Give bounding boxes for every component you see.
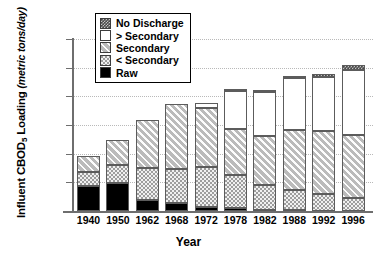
y-axis-units: (metric tons/day) [15,7,27,88]
bar-segment-raw [106,183,129,211]
bar-segment-gt_secondary [224,91,247,129]
bar-segment-lt_secondary [253,185,276,210]
bar-1972 [195,39,218,211]
legend-swatch-icon [100,30,111,41]
legend-item-secondary: > Secondary [100,29,184,41]
bar-segment-secondary [253,136,276,185]
bar-1992 [312,39,335,211]
bar-segment-secondary [77,156,100,172]
bar-1978 [224,39,247,211]
bar-segment-lt_secondary [106,165,129,183]
legend-item-raw: Raw [100,67,184,79]
bar-segment-no_discharge [253,90,276,92]
bar-segment-gt_secondary [283,78,306,130]
legend-swatch-icon [100,18,111,29]
legend-item-secondary: < Secondary [100,54,184,66]
legend-label: No Discharge [116,17,184,29]
legend-item-secondary: Secondary [100,42,184,54]
bar-segment-lt_secondary [283,190,306,211]
legend-swatch-icon [100,42,111,53]
bar-segment-secondary [283,130,306,190]
legend-label: < Secondary [116,54,179,66]
bar-segment-lt_secondary [312,194,335,211]
y-axis-title: Influent CBOD5 Loading (metric tons/day) [15,10,27,218]
y-axis-title-rest: Loading [15,88,27,137]
bar-1982 [253,39,276,211]
legend-item-no-discharge: No Discharge [100,17,184,29]
y-axis-title-main: Influent CBOD [15,142,27,218]
x-axis-line [63,211,373,213]
bar-segment-raw [165,203,188,211]
x-axis-title: Year [0,235,377,249]
bar-segment-secondary [342,135,365,198]
bar-segment-gt_secondary [312,77,335,131]
bar-segment-gt_secondary [342,70,365,135]
bar-segment-lt_secondary [77,172,100,187]
bar-segment-raw [224,208,247,211]
bar-segment-raw [136,200,159,211]
legend-label: Raw [116,67,138,79]
bar-segment-lt_secondary [342,198,365,211]
chart-container: Influent CBOD5 Loading (metric tons/day)… [0,0,377,262]
bar-segment-no_discharge [312,74,335,77]
bar-segment-gt_secondary [195,103,218,108]
bar-segment-lt_secondary [136,168,159,200]
legend-swatch-icon [100,55,111,66]
bar-segment-secondary [224,129,247,175]
bar-segment-no_discharge [224,89,247,91]
bar-segment-secondary [312,131,335,194]
bar-segment-lt_secondary [224,175,247,208]
chart-legend: No Discharge> SecondarySecondary< Second… [95,13,191,83]
x-tick-label-1996: 1996 [333,214,373,226]
bar-1988 [283,39,306,211]
legend-label: Secondary [116,42,170,54]
bar-segment-secondary [106,140,129,166]
bar-segment-lt_secondary [195,167,218,207]
bar-segment-secondary [165,104,188,169]
bar-segment-secondary [195,108,218,167]
bar-segment-no_discharge [342,65,365,69]
legend-swatch-icon [100,67,111,78]
bar-segment-secondary [136,120,159,168]
bar-segment-raw [195,207,218,211]
legend-label: > Secondary [116,30,179,42]
bar-segment-lt_secondary [165,169,188,203]
bar-segment-raw [77,186,100,211]
bar-1996 [342,39,365,211]
y-axis-title-subscript: 5 [20,138,29,142]
bar-segment-gt_secondary [253,92,276,136]
bar-segment-no_discharge [283,76,306,79]
